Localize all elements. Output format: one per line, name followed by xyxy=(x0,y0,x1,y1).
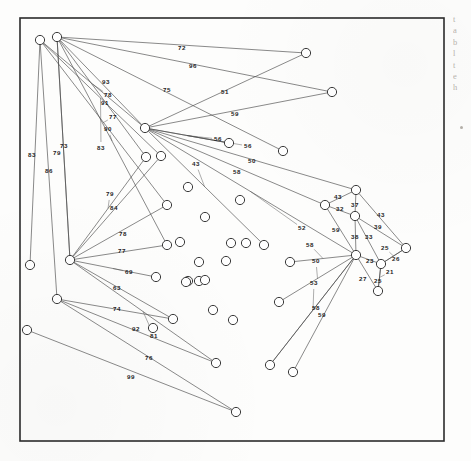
graph-edge xyxy=(60,41,144,154)
margin-text-line: b xyxy=(453,37,471,48)
edge-label-leader xyxy=(113,269,123,271)
edge-weight-label: 43 xyxy=(377,211,385,218)
graph-node xyxy=(226,238,235,247)
edge-weight-label: 99 xyxy=(127,373,135,380)
graph-node xyxy=(231,407,240,416)
edge-weight-label: 69 xyxy=(125,268,133,275)
edge-weight-label: 25 xyxy=(374,277,382,284)
graph-edge xyxy=(31,332,231,411)
margin-text-line: t xyxy=(453,14,471,25)
graph-node xyxy=(274,297,283,306)
graph-node xyxy=(401,243,410,252)
graph-node xyxy=(278,146,287,155)
graph-node xyxy=(241,238,250,247)
graph-node xyxy=(181,277,190,286)
graph-node xyxy=(22,325,31,334)
graph-edge xyxy=(149,130,321,203)
edge-weight-label: 84 xyxy=(110,204,118,211)
graph-node xyxy=(200,212,209,221)
edge-weight-label: 43 xyxy=(334,193,342,200)
graph-node xyxy=(235,195,244,204)
edge-weight-label: 72 xyxy=(178,44,186,51)
graph-node xyxy=(183,182,192,191)
edge-weight-label: 50 xyxy=(248,157,256,164)
graph-node xyxy=(351,250,360,259)
network-graph-figure: 7296755159937891779083838679737984787769… xyxy=(0,0,471,461)
edge-weight-label: 79 xyxy=(53,149,61,156)
graph-node xyxy=(162,200,171,209)
edge-weight-label: 39 xyxy=(374,223,382,230)
edge-weight-label: 90 xyxy=(104,125,112,132)
edge-weight-label: 77 xyxy=(109,113,117,120)
graph-node xyxy=(224,138,233,147)
edge-weight-label: 37 xyxy=(351,201,359,208)
graph-node xyxy=(320,200,329,209)
graph-node xyxy=(208,305,217,314)
graph-node xyxy=(200,275,209,284)
graph-edge-label-layer: 7296755159937891779083838679737984787769… xyxy=(28,44,400,380)
edge-weight-label: 63 xyxy=(113,284,121,291)
edge-weight-label: 33 xyxy=(365,233,373,240)
graph-node xyxy=(151,272,160,281)
margin-text-line: h xyxy=(453,82,471,93)
graph-node xyxy=(351,185,360,194)
margin-text-line: a xyxy=(453,25,471,36)
edge-weight-label: 38 xyxy=(351,233,359,240)
edge-weight-label: 26 xyxy=(392,255,400,262)
graph-node xyxy=(221,256,230,265)
edge-weight-label: 58 xyxy=(233,168,241,175)
graph-node xyxy=(285,257,294,266)
edge-weight-label: 59 xyxy=(332,226,340,233)
edge-weight-label: 25 xyxy=(381,244,389,251)
graph-node xyxy=(168,314,177,323)
graph-node xyxy=(25,260,34,269)
graph-node xyxy=(156,151,165,160)
edge-weight-label: 43 xyxy=(192,160,200,167)
edge-weight-label: 23 xyxy=(366,257,374,264)
edge-weight-label: 53 xyxy=(310,279,318,286)
edge-weight-label: 75 xyxy=(163,86,171,93)
edge-weight-label: 51 xyxy=(221,88,229,95)
graph-node xyxy=(52,294,61,303)
edge-label-leader xyxy=(93,84,104,92)
graph-node xyxy=(35,35,44,44)
edge-weight-label: 92 xyxy=(132,325,140,332)
edge-weight-label: 74 xyxy=(113,305,121,312)
graph-node xyxy=(162,240,171,249)
margin-cutoff-text: tablteh xyxy=(453,14,471,94)
graph-node xyxy=(301,48,310,57)
edge-weight-label: 32 xyxy=(336,205,344,212)
edge-weight-label: 78 xyxy=(119,230,127,237)
graph-node xyxy=(141,152,150,161)
edge-weight-label: 83 xyxy=(97,144,105,151)
edge-weight-label: 59 xyxy=(318,311,326,318)
edge-weight-label: 56 xyxy=(244,142,252,149)
edge-weight-label: 91 xyxy=(101,99,109,106)
edge-weight-label: 58 xyxy=(306,241,314,248)
margin-text-line: e xyxy=(453,71,471,82)
edge-weight-label: 93 xyxy=(102,78,110,85)
edge-weight-label: 81 xyxy=(150,332,158,339)
edge-weight-label: 83 xyxy=(28,151,36,158)
graph-node xyxy=(327,87,336,96)
margin-text-line: l xyxy=(453,48,471,59)
edge-weight-label: 78 xyxy=(104,91,112,98)
edge-weight-label: 86 xyxy=(45,167,53,174)
graph-node xyxy=(259,240,268,249)
graph-node xyxy=(376,259,385,268)
figure-page: 7296755159937891779083838679737984787769… xyxy=(0,0,471,461)
edge-weight-label: 73 xyxy=(60,142,68,149)
edge-label-leader xyxy=(104,120,108,122)
edge-weight-label: 27 xyxy=(359,275,367,282)
graph-node xyxy=(288,367,297,376)
graph-node xyxy=(211,358,220,367)
edge-label-leader xyxy=(251,192,298,225)
margin-text-line: t xyxy=(453,60,471,71)
edge-label-leader xyxy=(317,267,318,279)
graph-node xyxy=(52,32,61,41)
graph-node xyxy=(140,123,149,132)
graph-node xyxy=(194,257,203,266)
edge-label-leader xyxy=(198,170,204,187)
edge-weight-label: 77 xyxy=(118,247,126,254)
graph-node xyxy=(350,211,359,220)
